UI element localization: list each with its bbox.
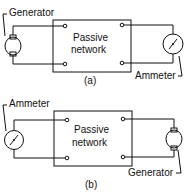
terminal-icon: [121, 117, 125, 121]
generator-label: Generator: [9, 7, 55, 18]
terminal-icon: [121, 155, 125, 159]
circuit-diagrams: Passive network Generator Ammeter (a): [0, 0, 187, 196]
generator-icon: [166, 128, 182, 150]
terminal-icon: [63, 62, 67, 66]
caption-a: (a): [84, 75, 96, 86]
terminal-icon: [65, 156, 69, 160]
ammeter-icon: [5, 131, 24, 150]
ammeter-label: Ammeter: [135, 70, 176, 81]
ammeter-label: Ammeter: [9, 98, 50, 109]
terminal-icon: [120, 23, 124, 27]
diagram-a: Passive network Generator Ammeter (a): [3, 7, 183, 86]
terminal-icon: [120, 61, 124, 65]
generator-icon: [5, 35, 21, 56]
generator-label: Generator: [128, 167, 174, 178]
network-label-line1: Passive: [74, 124, 109, 135]
terminal-icon: [65, 118, 69, 122]
diagram-b: Passive network Ammeter Generator (b): [3, 98, 182, 190]
network-label-line2: network: [71, 44, 107, 55]
ammeter-icon: [163, 34, 183, 54]
network-label-line1: Passive: [73, 32, 108, 43]
caption-b: (b): [85, 179, 97, 190]
network-label-line2: network: [72, 137, 108, 148]
terminal-icon: [63, 24, 67, 28]
